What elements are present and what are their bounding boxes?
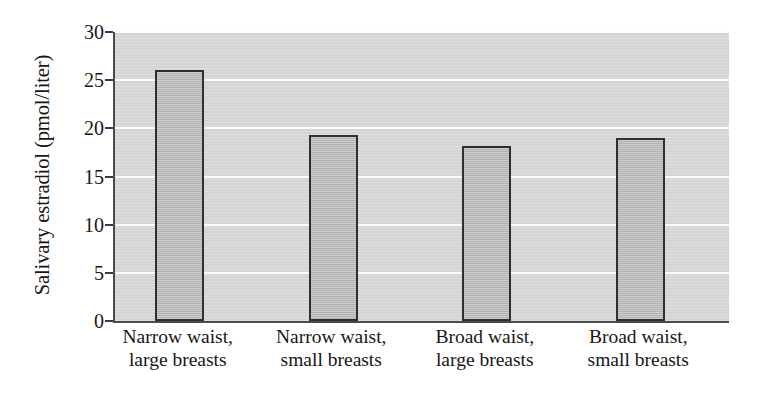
bar (462, 146, 511, 321)
x-axis-category-label-line: small breasts (251, 349, 411, 372)
y-axis-tick-label: 30 (62, 22, 104, 42)
y-axis-tick-mark (105, 320, 113, 322)
y-axis-tick-mark (105, 127, 113, 129)
x-axis-category-label-line: large breasts (98, 349, 258, 372)
x-axis-category-label-line: Narrow waist, (251, 326, 411, 349)
y-axis-tick-label: 5 (62, 263, 104, 283)
y-axis-tick-mark (105, 176, 113, 178)
x-axis-category-label-line: small breasts (558, 349, 718, 372)
y-axis-tick-label: 20 (62, 118, 104, 138)
x-axis-category-label: Narrow waist,small breasts (251, 326, 411, 371)
y-axis-tick-mark (105, 224, 113, 226)
x-axis-category-label-line: large breasts (405, 349, 565, 372)
bar (155, 70, 204, 321)
y-axis-tick-mark (105, 31, 113, 33)
y-axis-tick-mark (105, 79, 113, 81)
y-axis-tick-label: 25 (62, 70, 104, 90)
y-axis-title: Salivary estradiol (pmol/liter) (28, 5, 56, 345)
x-axis-category-label-line: Narrow waist, (98, 326, 258, 349)
gridline (115, 31, 729, 33)
x-axis-category-label: Broad waist,small breasts (558, 326, 718, 371)
x-axis-category-label-line: Broad waist, (558, 326, 718, 349)
x-axis-category-label-line: Broad waist, (405, 326, 565, 349)
x-axis-category-label: Narrow waist,large breasts (98, 326, 258, 371)
gridline (115, 79, 729, 81)
y-axis-tick-mark (105, 272, 113, 274)
y-axis-tick-label: 10 (62, 215, 104, 235)
plot-area (113, 32, 729, 323)
x-axis-category-labels: Narrow waist,large breastsNarrow waist,s… (113, 326, 760, 398)
gridline (115, 127, 729, 129)
y-axis-tick-label: 15 (62, 167, 104, 187)
bar (616, 138, 665, 321)
bar-chart-figure: Salivary estradiol (pmol/liter) 05101520… (0, 0, 760, 403)
bar (309, 135, 358, 321)
x-axis-category-label: Broad waist,large breasts (405, 326, 565, 371)
